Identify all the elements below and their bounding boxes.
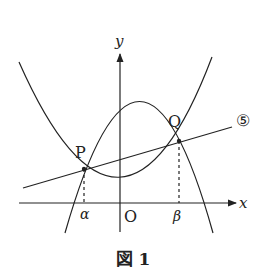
x-axis-label: x <box>239 194 248 212</box>
beta-label: β <box>172 208 181 224</box>
point-q-label: Q <box>168 112 181 131</box>
point-q-dot <box>177 139 181 143</box>
point-p-label: P <box>75 143 86 162</box>
origin-label: O <box>124 207 137 226</box>
graph-figure: y x O P Q α β ⑤ <box>0 0 266 276</box>
y-axis-label: y <box>114 32 124 50</box>
line-5 <box>23 127 232 188</box>
alpha-label: α <box>80 206 90 222</box>
point-p-dot <box>82 167 86 171</box>
line-5-label: ⑤ <box>236 111 250 130</box>
upward-parabola <box>19 57 212 177</box>
figure-caption: 図 1 <box>0 245 266 270</box>
